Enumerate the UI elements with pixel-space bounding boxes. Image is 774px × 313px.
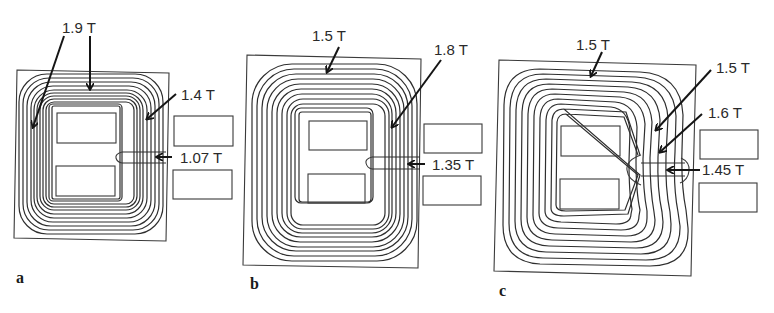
panel-a: 1.9 T 1.4 T 1.07 T a bbox=[14, 19, 233, 286]
label-c-1-45t: 1.45 T bbox=[702, 161, 744, 178]
panel-label-b: b bbox=[250, 275, 259, 292]
label-c-1-5t-top: 1.5 T bbox=[576, 36, 610, 53]
panel-a-gap-bulge bbox=[116, 152, 122, 163]
panel-c-lower-armature bbox=[699, 183, 757, 212]
panel-b-lower-coil bbox=[308, 174, 365, 203]
panel-a-lower-armature bbox=[173, 170, 232, 199]
panel-label-c: c bbox=[499, 282, 506, 299]
label-a-1-9t: 1.9 T bbox=[62, 19, 96, 36]
label-a-1-4t: 1.4 T bbox=[181, 86, 215, 103]
panel-c: 1.5 T 1.5 T 1.6 T 1.45 T c bbox=[494, 36, 758, 299]
panel-b-lower-armature bbox=[423, 176, 481, 205]
label-c-1-5t-leg: 1.5 T bbox=[716, 59, 750, 76]
panel-c-lower-coil bbox=[560, 179, 619, 209]
panel-c-upper-armature bbox=[700, 130, 758, 159]
panel-a-flux-lines bbox=[19, 74, 163, 234]
panel-a-upper-coil bbox=[57, 113, 116, 143]
label-b-1-8t: 1.8 T bbox=[434, 41, 468, 58]
arrow-icon bbox=[591, 52, 602, 76]
label-b-1-35t: 1.35 T bbox=[432, 156, 474, 173]
panel-label-a: a bbox=[16, 269, 24, 286]
panel-a-lower-coil bbox=[56, 166, 115, 196]
panel-c-flux-lines bbox=[503, 69, 688, 266]
arrow-icon bbox=[327, 47, 339, 72]
label-a-1-07t: 1.07 T bbox=[180, 149, 222, 166]
flux-diagram-figure: 1.9 T 1.4 T 1.07 T a bbox=[0, 0, 774, 313]
label-b-1-5t: 1.5 T bbox=[312, 27, 346, 44]
panel-b-upper-coil bbox=[309, 121, 367, 150]
panel-b: 1.5 T 1.8 T 1.35 T b bbox=[243, 27, 482, 292]
panel-a-upper-armature bbox=[174, 116, 233, 146]
label-c-1-6t: 1.6 T bbox=[708, 104, 742, 121]
panel-b-flux-lines bbox=[252, 64, 417, 261]
panel-b-upper-armature bbox=[424, 124, 482, 153]
